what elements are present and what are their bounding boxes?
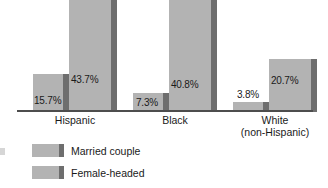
category-label-line1: White (229, 114, 321, 126)
category-label-line1: Hispanic (33, 114, 117, 126)
swatch-face (32, 166, 59, 179)
category-label-white: White (non-Hispanic) (229, 114, 321, 138)
page-edge-artifact (0, 148, 5, 155)
bar-chart: 15.7% 43.7% 7.3% 40.8% (0, 0, 328, 188)
plot-area: 15.7% 43.7% 7.3% 40.8% (0, 0, 328, 112)
legend-label: Married couple (71, 145, 140, 157)
bar-hispanic-married (33, 74, 69, 112)
category-label-hispanic: Hispanic (33, 114, 117, 126)
bar-face (69, 0, 111, 112)
legend-item-female-headed: Female-headed (32, 163, 145, 182)
bar-group-hispanic: 15.7% 43.7% (33, 0, 113, 112)
category-label-black: Black (133, 114, 217, 126)
bar-face (33, 74, 63, 112)
category-label-line1: Black (133, 114, 217, 126)
bar-side-shadow (311, 59, 317, 112)
legend-swatch-icon (32, 144, 64, 157)
value-label-white-female: 20.7% (271, 75, 298, 86)
value-label-black-married: 7.3% (136, 97, 158, 108)
bar-face (169, 0, 211, 112)
swatch-side-shadow (59, 144, 64, 157)
bar-hispanic-female (69, 0, 117, 112)
legend: Married couple Female-headed (32, 141, 145, 185)
bar-side-shadow (211, 0, 217, 112)
value-label-white-married: 3.8% (237, 89, 259, 100)
swatch-face (32, 144, 59, 157)
legend-label: Female-headed (71, 167, 145, 179)
bar-group-black: 7.3% 40.8% (133, 0, 213, 112)
swatch-side-shadow (59, 166, 64, 179)
bar-side-shadow (111, 0, 117, 112)
value-label-hispanic-married: 15.7% (34, 95, 61, 106)
value-label-hispanic-female: 43.7% (71, 74, 98, 85)
legend-swatch-icon (32, 166, 64, 179)
bar-group-white: 3.8% 20.7% (233, 0, 313, 112)
bar-black-female (169, 0, 217, 112)
x-axis-line (17, 110, 313, 112)
category-label-line2: (non-Hispanic) (229, 126, 321, 138)
value-label-black-female: 40.8% (171, 79, 198, 90)
legend-item-married-couple: Married couple (32, 141, 145, 160)
